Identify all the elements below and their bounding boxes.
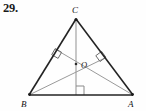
vertex-label-A: A: [127, 99, 134, 109]
altitude-group: [29, 19, 133, 95]
orthocenter-label-O: O: [81, 60, 87, 70]
vertex-dot-C: [75, 18, 78, 21]
vertex-dot-A: [131, 93, 134, 96]
vertex-dot-group: [28, 18, 134, 96]
side-AC: [76, 19, 133, 95]
vertex-dot-B: [28, 93, 31, 96]
geometry-figure: C B A O: [0, 0, 146, 111]
right-angle-mark-group: [52, 49, 106, 95]
right-angle-mark-base: [76, 86, 84, 95]
triangle-outline: [29, 19, 133, 95]
vertex-label-C: C: [72, 5, 79, 15]
vertex-label-B: B: [21, 99, 27, 109]
altitude-from-A: [55, 49, 133, 95]
orthocenter-dot-O: [75, 63, 78, 66]
figure-screenshot: 29. C B A O: [0, 0, 146, 111]
